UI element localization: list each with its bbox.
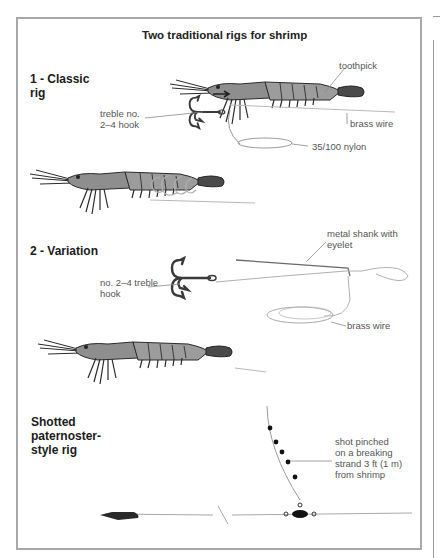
classic-rig-drawing <box>145 68 395 148</box>
label-treble-hook: treble no. 2–4 hook <box>100 108 140 130</box>
swivel-icon <box>292 510 308 518</box>
classic-rig-assembled-drawing <box>30 170 255 214</box>
shrimp-icon <box>38 340 232 384</box>
shot-weight <box>280 450 285 455</box>
brass-wire-line <box>230 105 395 112</box>
label-toothpick: toothpick <box>339 60 377 71</box>
shot-weight <box>293 475 298 480</box>
variation-rig-drawing <box>38 242 408 384</box>
nylon-coil <box>238 138 292 148</box>
section-heading-classic: 1 - Classic rig <box>30 72 89 100</box>
main-line <box>105 513 412 515</box>
shrimp-icon <box>30 170 224 214</box>
treble-hook-icon <box>172 258 216 298</box>
shot-weight <box>268 426 273 431</box>
diagram-title: Two traditional rigs for shrimp <box>142 29 307 41</box>
section-heading-paternoster: Shotted paternoster- style rig <box>31 415 101 457</box>
label-brass-wire: brass wire <box>350 118 393 129</box>
brass-wire-coil <box>267 307 333 323</box>
label-brass-wire: brass wire <box>347 320 390 331</box>
shot-weight <box>274 440 279 445</box>
label-nylon: 35/100 nylon <box>312 141 366 152</box>
label-treble-hook: no. 2–4 treble hook <box>100 277 158 299</box>
label-metal-shank: metal shank with eyelet <box>327 228 398 250</box>
section-heading-variation: 2 - Variation <box>30 244 98 258</box>
treble-hook-icon <box>190 96 225 128</box>
shrimp-icon <box>170 80 364 124</box>
label-shot: shot pinched on a breaking strand 3 ft (… <box>335 436 402 480</box>
metal-shank <box>236 260 350 276</box>
small-shrimp-icon <box>100 512 139 520</box>
shot-weight <box>286 460 291 465</box>
